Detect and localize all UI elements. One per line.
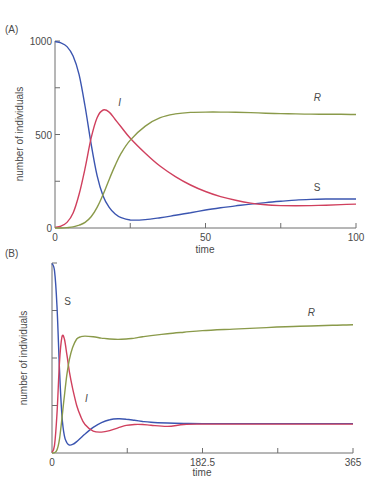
- panel-a-x-axis-label: time: [196, 244, 215, 255]
- y-tick-label: 1000: [30, 36, 53, 47]
- curve-s: [52, 264, 353, 446]
- x-tick-label: 365: [345, 457, 362, 468]
- curve-label-i: I: [85, 393, 88, 404]
- panel-a-curves: [55, 42, 356, 228]
- panel-a-label: (A): [5, 24, 18, 35]
- x-tick-label: 0: [49, 457, 55, 468]
- panel-a-y-axis-label: number of individuals: [14, 87, 25, 182]
- panel-b-ticks: 0182.5365: [49, 263, 362, 468]
- panel-b-curve-labels: SRI: [64, 296, 315, 404]
- curve-label-s: S: [64, 296, 71, 307]
- curve-r: [52, 325, 353, 453]
- curve-label-r: R: [308, 307, 315, 318]
- panel-b-curves: [52, 264, 353, 453]
- y-tick-label: 0: [46, 223, 52, 234]
- curve-label-s: S: [314, 182, 321, 193]
- sir-model-figure: (A) 05010005001000 number of individuals…: [0, 0, 385, 499]
- panel-a: (A) 05010005001000 number of individuals…: [5, 24, 365, 255]
- x-tick-label: 50: [200, 232, 212, 243]
- y-tick-label: 500: [35, 130, 52, 141]
- panel-b: (B) 0182.5365 number of individuals time…: [5, 248, 362, 478]
- x-tick-label: 0: [52, 232, 58, 243]
- curve-s: [55, 42, 356, 221]
- x-tick-label: 100: [348, 232, 365, 243]
- curve-label-i: I: [118, 97, 121, 108]
- panel-b-y-axis-label: number of individuals: [18, 311, 29, 406]
- curve-i: [52, 335, 353, 452]
- panel-b-x-axis-label: time: [193, 467, 212, 478]
- panel-a-curve-labels: IRS: [118, 92, 321, 193]
- panel-b-label: (B): [5, 248, 18, 259]
- curve-label-r: R: [314, 92, 321, 103]
